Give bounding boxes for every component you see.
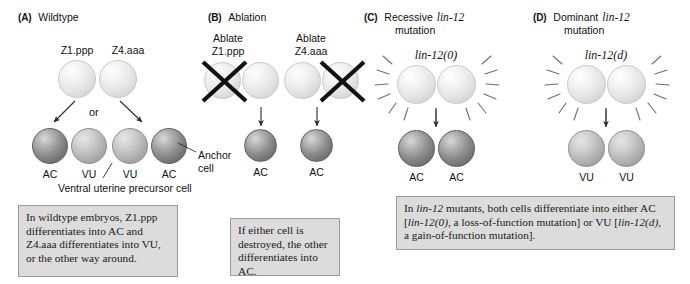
caption-cd-gene1: lin-12 [416,202,443,214]
outcome-label-c2: AC [438,171,475,183]
mutant-cell-c2 [437,65,476,104]
caption-ablation: If either cell is destroyed, the other d… [230,218,340,276]
outcome-cell-a3-vu [112,128,148,164]
panel-d-title-line2: mutation [564,24,604,37]
outcome-label-a4: AC [151,168,187,180]
or-connector-label: or [89,106,99,118]
outcome-cell-c1-ac [398,130,435,167]
ablated-cell-z1ppp [204,62,241,99]
panel-c-title-line2: mutation [395,24,435,37]
panel-a-letter: (A) [18,12,31,23]
panel-b-title: Ablation [228,11,266,23]
caption-cd-gene2: lin-12(0) [408,216,448,228]
panel-b-heading: (B)Ablation [208,11,266,24]
ablate-z1ppp-line2: Z1.ppp [199,45,257,57]
panel-a-heading: (A)Wildtype [18,11,79,24]
panel-b-letter: (B) [208,12,221,23]
panel-c-heading: (C)Recessivelin-12 [364,11,464,24]
mutant-cell-d2 [607,65,646,104]
mutant-cell-d1 [567,65,606,104]
precursor-cell-z4aaa [99,60,137,98]
outcome-label-a3: VU [112,168,148,180]
panel-d-title-prefix: Dominant [553,11,598,23]
surviving-cell-b1 [242,62,279,99]
cell-label-z4aaa: Z4.aaa [104,44,152,56]
outcome-cell-c2-ac [438,130,475,167]
outcome-cell-a4-ac [151,128,187,164]
ablate-z4aaa-line1: Ablate [282,32,340,44]
caption-cd-part3: , a loss-of-function mutation] or VU [ [448,216,618,228]
ablate-z1ppp-line1: Ablate [199,32,257,44]
outcome-cell-a2-vu [71,128,107,164]
ablate-z4aaa-line2: Z4.aaa [282,45,340,57]
panel-a-title: Wildtype [38,11,78,23]
outcome-label-d2: VU [608,171,645,183]
mutant-cell-c1 [397,65,436,104]
panel-c-title-gene: lin-12 [437,11,464,23]
caption-cd-part1: In [404,202,416,214]
panel-d-heading: (D)Dominantlin-12 [533,11,630,24]
caption-cd-gene3: lin-12(d) [618,216,658,228]
surviving-cell-b2 [284,62,321,99]
caption-lin12-mutants: In lin-12 mutants, both cells differenti… [396,196,675,250]
outcome-label-a2: VU [71,168,107,180]
outcome-cell-b1-ac [244,129,277,162]
ventral-uterine-precursor-annotation: Ventral uterine precursor cell [58,182,192,194]
panel-c-title-prefix: Recessive [384,11,432,23]
outcome-cell-d1-vu [568,130,605,167]
panel-c-letter: (C) [364,12,377,23]
outcome-label-c1: AC [398,171,435,183]
caption-wildtype: In wildtype embryos, Z1.ppp differentiat… [18,205,178,277]
cell-label-z1ppp: Z1.ppp [53,44,101,56]
genotype-label-lin12-d: lin-12(d) [544,48,668,63]
genotype-label-lin12-0: lin-12(0) [374,48,498,63]
panel-d-title-gene: lin-12 [602,11,629,23]
outcome-cell-a1-ac [32,128,68,164]
outcome-label-a1: AC [32,168,68,180]
precursor-cell-z1ppp [58,60,96,98]
outcome-cell-d2-vu [608,130,645,167]
outcome-label-d1: VU [568,171,605,183]
outcome-label-b1: AC [244,166,277,178]
outcome-cell-b2-ac [300,129,333,162]
outcome-label-b2: AC [300,166,333,178]
panel-d-letter: (D) [533,12,546,23]
